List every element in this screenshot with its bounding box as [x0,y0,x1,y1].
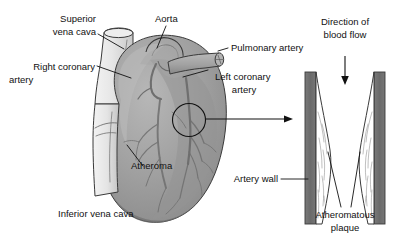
label-direction-of-blood-flow-line2: blood flow [324,29,367,40]
label-left-coronary-artery-line2: artery [232,84,257,95]
artery-wall-left [305,72,316,224]
heart-illustration [93,28,226,223]
inferior-vena-cava-vessel [93,104,119,196]
label-superior-vena-cava-line2: vena cava [53,26,97,37]
artery-cross-section [305,56,385,224]
label-inferior-vena-cava: Inferior vena cava [58,208,134,219]
label-atheroma: Atheroma [131,160,173,171]
label-direction-of-blood-flow-line1: Direction of [321,16,369,27]
blood-flow-arrow-icon [341,56,349,85]
label-atheromatous-plaque-line1: Atheromatous [315,209,374,220]
label-right-coronary-artery-line1: Right coronary [33,61,95,72]
artery-wall-right [374,72,385,224]
label-right-coronary-artery-line2: artery [9,74,34,85]
label-left-coronary-artery-line1: Left coronary [215,71,271,82]
label-artery-wall: Artery wall [234,173,278,184]
label-pulmonary-artery: Pulmonary artery [231,42,304,53]
label-aorta: Aorta [155,13,178,24]
label-superior-vena-cava-line1: Superior [60,13,96,24]
anatomical-diagram: Superior vena cava Aorta Right coronary … [0,0,415,248]
label-atheromatous-plaque-line2: plaque [331,222,360,233]
